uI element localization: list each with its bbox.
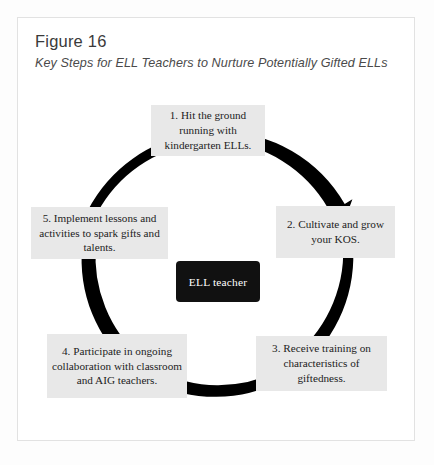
step-box-4: 4. Participate in ongoing collaboration … [47,334,187,398]
step-box-5: 5. Implement lessons and activities to s… [31,207,168,259]
step-box-4-label: 4. Participate in ongoing collaboration … [52,344,182,389]
figure-subtitle: Key Steps for ELL Teachers to Nurture Po… [35,56,388,70]
step-box-1-label: 1. Hit the ground running with kindergar… [156,108,260,153]
figure-panel: Figure 16 Key Steps for ELL Teachers to … [17,17,415,441]
step-box-2: 2. Cultivate and grow your KOS. [276,206,395,258]
step-box-3-label: 3. Receive training on characteristics o… [261,341,382,386]
step-box-5-label: 5. Implement lessons and activities to s… [36,211,163,256]
center-node-label: ELL teacher [189,276,247,288]
cycle-diagram: 1. Hit the ground running with kindergar… [18,78,414,440]
figure-screenshot: Figure 16 Key Steps for ELL Teachers to … [0,0,434,465]
figure-title: Figure 16 [35,32,107,51]
step-box-2-label: 2. Cultivate and grow your KOS. [281,217,390,247]
center-node: ELL teacher [176,261,260,302]
step-box-3: 3. Receive training on characteristics o… [256,336,387,391]
step-box-1: 1. Hit the ground running with kindergar… [151,105,265,156]
